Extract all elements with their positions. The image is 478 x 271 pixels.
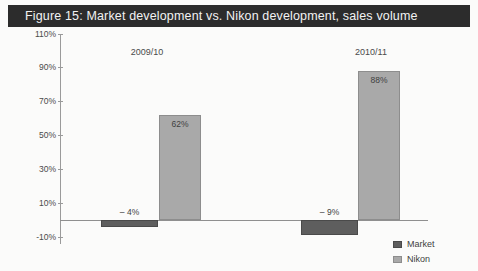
chart-legend: Market Nikon <box>393 238 473 268</box>
bar-nikon-2010-11[interactable] <box>358 71 400 220</box>
bar-market-2009-10[interactable] <box>101 220 158 227</box>
y-tick-label: 30% <box>39 163 56 175</box>
tick-mark-icon <box>58 237 63 238</box>
y-tick-90: 90% <box>0 61 68 73</box>
y-tick-label: -10% <box>36 231 56 243</box>
chart-plot-area: 110% 90% 70% 50% 30% 10% -10% 2009/10 <box>0 27 478 271</box>
figure-container: Figure 15: Market development vs. Nikon … <box>0 0 478 271</box>
legend-item-market[interactable]: Market <box>393 238 473 250</box>
legend-label-market: Market <box>407 239 435 249</box>
y-tick-70: 70% <box>0 95 68 107</box>
page-title: Figure 15: Market development vs. Nikon … <box>25 9 418 23</box>
y-tick-label: 70% <box>39 95 56 107</box>
bar-label-nikon-2009-10: 62% <box>159 119 201 129</box>
tick-mark-icon <box>58 34 63 35</box>
tick-mark-icon <box>58 101 63 102</box>
bar-market-2010-11[interactable] <box>301 220 358 235</box>
bar-nikon-2009-10[interactable] <box>159 115 201 220</box>
group-label-2009-10: 2009/10 <box>112 47 182 57</box>
tick-mark-icon <box>58 67 63 68</box>
figure-title-bar: Figure 15: Market development vs. Nikon … <box>8 5 470 27</box>
legend-swatch-icon <box>393 241 402 248</box>
tick-mark-icon <box>58 169 63 170</box>
y-tick-30: 30% <box>0 163 68 175</box>
y-tick-label: 90% <box>39 61 56 73</box>
y-tick-label: 50% <box>39 129 56 141</box>
y-tick-110: 110% <box>0 28 68 40</box>
bar-label-nikon-2010-11: 88% <box>358 75 400 85</box>
legend-swatch-icon <box>393 256 402 263</box>
tick-mark-icon <box>58 203 63 204</box>
tick-mark-icon <box>58 135 63 136</box>
group-label-2010-11: 2010/11 <box>336 47 406 57</box>
legend-label-nikon: Nikon <box>407 254 430 264</box>
y-tick-label: 110% <box>35 28 56 40</box>
y-tick-10: 10% <box>0 197 68 209</box>
y-tick-minus10: -10% <box>0 231 68 243</box>
legend-item-nikon[interactable]: Nikon <box>393 253 473 265</box>
y-tick-label: 10% <box>39 197 56 209</box>
bar-label-market-2010-11: – 9% <box>299 207 360 217</box>
y-tick-50: 50% <box>0 129 68 141</box>
bar-label-market-2009-10: – 4% <box>99 207 160 217</box>
